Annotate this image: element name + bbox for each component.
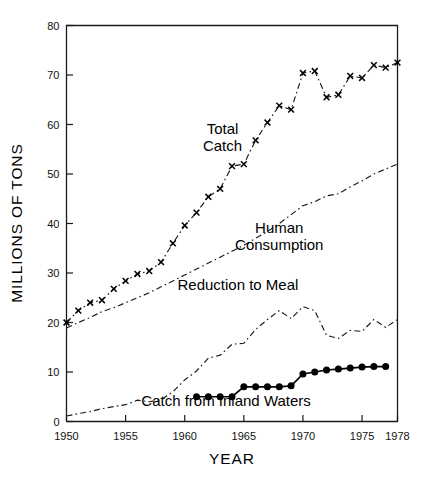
data-point-marker bbox=[205, 194, 211, 200]
plot-frame bbox=[67, 26, 398, 422]
data-point-marker bbox=[252, 383, 259, 390]
y-tick-label: 0 bbox=[53, 416, 59, 428]
fisheries-catch-chart: 01020304050607080 1950195519601965197019… bbox=[0, 0, 435, 482]
x-tick-label: 1950 bbox=[54, 430, 78, 442]
series-annotation: HumanConsumption bbox=[235, 219, 323, 253]
series-human-consumption bbox=[67, 164, 398, 328]
data-point-marker bbox=[288, 382, 295, 389]
series-layer bbox=[64, 60, 401, 416]
y-tick-label: 50 bbox=[47, 168, 59, 180]
data-point-marker bbox=[194, 210, 200, 216]
data-point-marker bbox=[288, 107, 294, 113]
data-point-marker bbox=[299, 370, 306, 377]
data-point-marker bbox=[276, 103, 282, 109]
data-point-marker bbox=[335, 92, 341, 98]
y-tick-label: 70 bbox=[47, 69, 59, 81]
y-tick-label: 10 bbox=[47, 366, 59, 378]
data-point-marker bbox=[229, 163, 235, 169]
annotation-layer: TotalCatchHumanConsumptionReduction to M… bbox=[141, 120, 323, 408]
data-point-marker bbox=[264, 383, 271, 390]
data-point-marker bbox=[359, 364, 366, 371]
x-tick-label: 1965 bbox=[232, 430, 256, 442]
data-point-marker bbox=[335, 366, 342, 373]
data-point-marker bbox=[323, 367, 330, 374]
data-point-marker bbox=[241, 161, 247, 167]
x-tick-label: 1970 bbox=[291, 430, 315, 442]
plot-border bbox=[67, 26, 398, 422]
y-tick-label: 60 bbox=[47, 119, 59, 131]
data-point-marker bbox=[382, 363, 389, 370]
data-point-marker bbox=[158, 259, 164, 265]
data-point-marker bbox=[347, 365, 354, 372]
data-point-marker bbox=[240, 383, 247, 390]
data-point-marker bbox=[146, 268, 152, 274]
y-tick-label: 40 bbox=[47, 218, 59, 230]
y-tick-label: 30 bbox=[47, 267, 59, 279]
data-point-marker bbox=[75, 308, 81, 314]
data-point-marker bbox=[123, 278, 129, 284]
data-point-marker bbox=[111, 286, 117, 292]
series-annotation: Catch from Inland Waters bbox=[141, 392, 311, 409]
x-tick-label: 1960 bbox=[172, 430, 196, 442]
y-tick-label: 20 bbox=[47, 317, 59, 329]
x-axis-ticks: 1950195519601965197019751978 bbox=[54, 415, 409, 442]
data-point-marker bbox=[217, 186, 223, 192]
data-point-marker bbox=[99, 297, 105, 303]
x-tick-label: 1978 bbox=[385, 430, 409, 442]
series-annotation: TotalCatch bbox=[203, 120, 242, 154]
x-tick-label: 1955 bbox=[113, 430, 137, 442]
data-point-marker bbox=[182, 223, 188, 229]
x-axis-title: YEAR bbox=[209, 450, 255, 467]
series-annotation: Reduction to Meal bbox=[177, 276, 298, 293]
y-tick-label: 80 bbox=[47, 20, 59, 32]
y-axis-ticks: 01020304050607080 bbox=[47, 20, 73, 428]
data-point-marker bbox=[253, 137, 259, 143]
chart-canvas: 01020304050607080 1950195519601965197019… bbox=[0, 0, 435, 482]
x-tick-label: 1975 bbox=[350, 430, 374, 442]
series-path bbox=[67, 164, 398, 328]
data-point-marker bbox=[265, 120, 271, 126]
data-point-marker bbox=[371, 62, 377, 68]
y-axis-title: MILLIONS OF TONS bbox=[8, 143, 25, 302]
data-point-marker bbox=[370, 363, 377, 370]
data-point-marker bbox=[311, 369, 318, 376]
data-point-marker bbox=[312, 68, 318, 74]
data-point-marker bbox=[276, 383, 283, 390]
data-point-marker bbox=[170, 240, 176, 246]
